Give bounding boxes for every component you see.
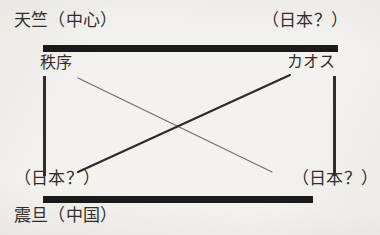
connector-chaos-to-order-icon — [78, 75, 290, 172]
diagram-canvas: 天竺（中心） （日本？） 秩序 カオス （日本？） （日本？） 震旦（中国） — [0, 0, 380, 235]
rule-left-vertical — [43, 76, 46, 176]
rule-right-vertical — [333, 76, 336, 176]
rule-bottom-horizontal — [43, 196, 313, 203]
connector-order-to-chaos-icon — [78, 78, 272, 172]
label-top-right-japan: （日本？） — [262, 12, 348, 29]
label-top-left-tenjiku: 天竺（中心） — [14, 12, 117, 29]
label-bottom-left-japan: （日本？） — [14, 170, 100, 187]
label-left-axis-order: 秩序 — [40, 55, 72, 71]
label-right-axis-chaos: カオス — [287, 54, 336, 70]
label-bottom-outer-shintan: 震旦（中国） — [14, 207, 117, 224]
rule-top-horizontal — [43, 45, 338, 52]
